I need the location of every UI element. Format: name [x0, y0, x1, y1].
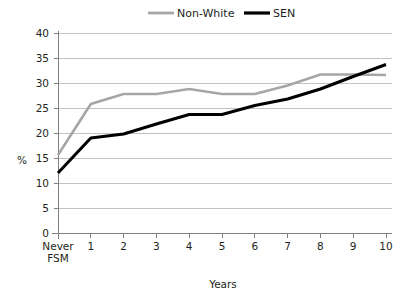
x-axis-title: Years: [208, 278, 237, 290]
x-tick-label: 1: [87, 240, 94, 252]
y-tick-label: 35: [36, 52, 49, 64]
y-axis-title: %: [17, 154, 27, 166]
y-tick-label: 10: [36, 177, 49, 189]
x-tick-label: 2: [120, 240, 127, 252]
x-tick-label: 3: [153, 240, 160, 252]
legend-label: SEN: [273, 7, 295, 20]
line-chart: 0510152025303540 NeverFSM12345678910 Non…: [0, 0, 402, 294]
x-tick-label: 9: [350, 240, 357, 252]
x-tick-label: Never: [42, 240, 74, 252]
x-tick-label: 7: [284, 240, 291, 252]
y-tick-label: 20: [36, 127, 49, 139]
y-tick-label: 40: [36, 27, 49, 39]
y-tick-label: 0: [42, 227, 49, 239]
y-tick-label: 25: [36, 102, 49, 114]
legend-label: Non-White: [177, 7, 235, 20]
x-tick-label: 5: [219, 240, 226, 252]
x-tick-label: FSM: [47, 252, 69, 264]
x-tick-label: 8: [317, 240, 324, 252]
x-tick-label: 6: [251, 240, 258, 252]
chart-container: 0510152025303540 NeverFSM12345678910 Non…: [0, 0, 402, 294]
x-tick-label: 4: [186, 240, 193, 252]
y-tick-label: 30: [36, 77, 49, 89]
x-tick-label: 10: [379, 240, 392, 252]
y-tick-label: 5: [42, 202, 49, 214]
y-tick-label: 15: [36, 152, 49, 164]
